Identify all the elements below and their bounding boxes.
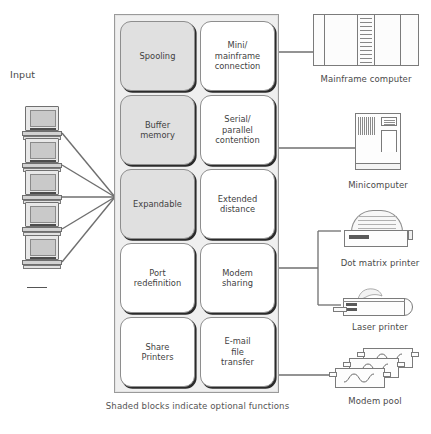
- terminal-1[interactable]: [22, 106, 62, 142]
- dot-matrix-paper: [351, 210, 403, 232]
- terminal-bezel-strip: [30, 257, 56, 260]
- function-cell-grid: SpoolingMini/ mainframe connectionBuffer…: [120, 21, 275, 389]
- device-modem-pool: [333, 348, 415, 390]
- function-cell[interactable]: E-mail file transfer: [200, 317, 275, 387]
- function-cell[interactable]: Expandable: [120, 169, 195, 239]
- device-laser-printer: [339, 288, 415, 322]
- function-cell[interactable]: Serial/ parallel contention: [200, 95, 275, 165]
- device-dot-matrix-printer: [339, 210, 413, 254]
- input-label: Input: [10, 69, 35, 81]
- mainframe-panel-4: [400, 14, 419, 66]
- minicomputer-label: Minicomputer: [328, 180, 428, 190]
- terminal-bezel-strip: [30, 224, 56, 227]
- diagram-caption: Shaded blocks indicate optional function…: [60, 401, 335, 411]
- dot-matrix-controls: [349, 235, 369, 239]
- laser-controls-upper: [346, 303, 357, 306]
- terminal-3[interactable]: [22, 170, 62, 206]
- minicomputer-vents: [358, 117, 375, 135]
- terminal-monitor: [25, 170, 59, 195]
- minicomputer-base: [355, 163, 401, 170]
- modem-ear-1a: [329, 372, 337, 377]
- diagram-canvas: Input SpoolingMini/ mainframe connection…: [0, 0, 431, 434]
- terminal-screen: [30, 142, 56, 159]
- mainframe-label: Mainframe computer: [303, 74, 429, 84]
- modem-ear-3a: [357, 352, 365, 357]
- function-cell[interactable]: Modem sharing: [200, 243, 275, 313]
- minicomputer-door: [381, 130, 397, 152]
- link-terminal-1: [62, 133, 115, 197]
- terminal-screen: [30, 174, 56, 191]
- function-cell[interactable]: Mini/ mainframe connection: [200, 21, 275, 91]
- terminal-bezel-strip: [30, 128, 56, 131]
- mainframe-panel-3: [374, 14, 401, 66]
- function-cell[interactable]: Extended distance: [200, 169, 275, 239]
- terminal-keyboard: [23, 265, 61, 269]
- modem-ear-2b: [397, 362, 405, 367]
- link-terminal-2: [62, 165, 115, 197]
- function-cell[interactable]: Buffer memory: [120, 95, 195, 165]
- terminal-bezel-strip: [30, 192, 56, 195]
- modem-pool-label: Modem pool: [320, 396, 430, 406]
- terminal-4[interactable]: [22, 202, 62, 238]
- laser-top-lid: [343, 298, 405, 302]
- terminal-screen: [30, 206, 56, 223]
- modem-unit-1: [335, 368, 385, 388]
- terminal-5[interactable]: [22, 235, 62, 271]
- terminal-base-slot: [27, 287, 47, 288]
- terminal-monitor: [25, 138, 59, 163]
- mainframe-tape-panel: [357, 14, 375, 66]
- terminal-monitor: [25, 202, 59, 227]
- terminal-monitor: [25, 106, 59, 131]
- link-terminal-5: [62, 197, 115, 262]
- modem-wave-1: [336, 369, 384, 387]
- function-cell[interactable]: Port redefinition: [120, 243, 195, 313]
- modem-ear-2a: [343, 362, 351, 367]
- mainframe-grill: [358, 15, 374, 65]
- laser-printer-label: Laser printer: [330, 322, 430, 332]
- terminal-monitor: [25, 235, 59, 260]
- link-terminal-4: [62, 197, 115, 229]
- laser-paper-tray: [333, 307, 347, 312]
- laser-controls-lower: [346, 308, 357, 311]
- dot-matrix-knob: [408, 230, 413, 240]
- modem-ear-1b: [383, 372, 391, 377]
- function-cell[interactable]: Spooling: [120, 21, 195, 91]
- terminal-bezel-strip: [30, 160, 56, 163]
- device-minicomputer: [355, 113, 401, 175]
- mainframe-panel-2: [324, 14, 358, 66]
- function-cell[interactable]: Share Printers: [120, 317, 195, 387]
- terminal-screen: [30, 110, 56, 127]
- device-mainframe: [313, 14, 419, 66]
- terminal-screen: [30, 239, 56, 256]
- dot-matrix-printer-label: Dot matrix printer: [330, 258, 430, 268]
- minicomputer-control-panel: [381, 117, 397, 126]
- terminal-2[interactable]: [22, 138, 62, 174]
- function-panel: SpoolingMini/ mainframe connectionBuffer…: [114, 14, 279, 393]
- dot-matrix-body: [344, 230, 408, 247]
- modem-ear-3b: [411, 352, 419, 357]
